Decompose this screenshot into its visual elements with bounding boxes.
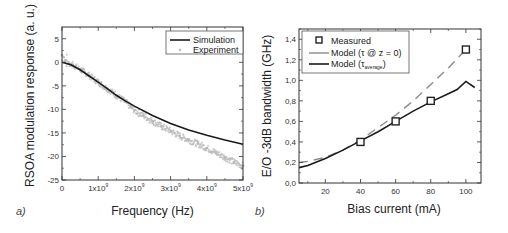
experiment-point xyxy=(143,113,145,115)
experiment-point xyxy=(63,56,65,58)
x-tick-label-exponent: 9 xyxy=(105,182,108,188)
experiment-point xyxy=(198,145,200,147)
x-tick-label-exponent: 9 xyxy=(214,182,217,188)
measured-point xyxy=(427,97,434,104)
experiment-point xyxy=(235,163,237,165)
experiment-point xyxy=(230,163,232,165)
y-tick-label: -25 xyxy=(47,176,59,185)
chart-a-legend: Simulation Experiment xyxy=(166,31,243,55)
x-tick-label-base: 2x10 xyxy=(124,184,142,193)
chart-a-series xyxy=(61,54,245,170)
x-tick-label: 1x109 xyxy=(88,182,108,193)
x-tick-label: 40 xyxy=(356,187,365,196)
experiment-point xyxy=(214,148,216,150)
experiment-point xyxy=(169,127,171,129)
y-tick-label: 1,0 xyxy=(285,76,297,85)
y-tick-label: 0,4 xyxy=(285,138,297,147)
chart-b: 204060801000,00,20,40,60,81,01,21,4 Meas… xyxy=(255,29,481,217)
experiment-point xyxy=(135,109,137,111)
experiment-point xyxy=(118,94,120,96)
x-tick-label: 20 xyxy=(321,187,330,196)
figure: 01x1092x1093x1094x1095x10950-5-10-15-20-… xyxy=(0,0,508,233)
x-tick-label: 2x109 xyxy=(124,182,144,193)
y-tick-label: 0,2 xyxy=(285,158,297,167)
chart-a-x-axis-title: Frequency (Hz) xyxy=(111,204,194,218)
experiment-point xyxy=(65,59,67,61)
experiment-point xyxy=(201,142,203,144)
experiment-point xyxy=(176,134,178,136)
legend-label-simulation: Simulation xyxy=(193,35,235,45)
x-tick-label-base: 80 xyxy=(426,187,435,196)
x-tick-label-base: 40 xyxy=(356,187,365,196)
experiment-point xyxy=(151,117,153,119)
y-tick-label: -20 xyxy=(47,152,59,161)
experiment-point xyxy=(148,119,150,121)
x-tick-label-base: 5x10 xyxy=(233,184,251,193)
experiment-point xyxy=(98,79,100,81)
measured-point xyxy=(462,46,469,53)
experiment-point xyxy=(111,89,113,91)
experiment-point xyxy=(145,113,147,115)
y-tick-label: 0,8 xyxy=(285,97,297,106)
x-tick-label: 0 xyxy=(60,184,65,193)
x-tick-label-base: 4x10 xyxy=(197,184,215,193)
legend-label-measured: Measured xyxy=(331,36,371,46)
x-tick-label-base: 60 xyxy=(391,187,400,196)
experiment-point xyxy=(78,65,80,67)
x-tick-label: 4x109 xyxy=(197,182,217,193)
experiment-point xyxy=(191,140,193,142)
measured-point xyxy=(392,118,399,125)
y-tick-label: 5 xyxy=(55,35,60,44)
x-tick-label-exponent: 9 xyxy=(178,182,181,188)
experiment-point xyxy=(203,144,205,146)
experiment-point xyxy=(226,156,228,158)
experiment-point xyxy=(218,151,220,153)
experiment-point xyxy=(174,132,176,134)
x-tick-label-base: 20 xyxy=(321,187,330,196)
experiment-point xyxy=(133,111,135,113)
experiment-point xyxy=(163,126,165,128)
x-tick-label-exponent: 9 xyxy=(142,182,145,188)
x-tick-label: 60 xyxy=(391,187,400,196)
experiment-point xyxy=(163,124,165,126)
experiment-point xyxy=(154,119,156,121)
legend-label-experiment: Experiment xyxy=(193,45,239,55)
y-tick-label: 0,0 xyxy=(285,179,297,188)
x-tick-label-exponent: 9 xyxy=(250,182,253,188)
chart-a: 01x1092x1093x1094x1095x10950-5-10-15-20-… xyxy=(16,4,253,218)
x-tick-label: 5x109 xyxy=(233,182,253,193)
experiment-point xyxy=(223,154,225,156)
chart-b-legend: Measured Model (τ @ z = 0) Model (τavera… xyxy=(302,31,409,73)
x-tick-label-base: 100 xyxy=(459,187,473,196)
experiment-point xyxy=(90,79,92,81)
experiment-point xyxy=(94,76,96,78)
experiment-point xyxy=(74,68,76,70)
experiment-point xyxy=(99,86,101,88)
experiment-point xyxy=(68,61,70,63)
experiment-point xyxy=(161,126,163,128)
experiment-point xyxy=(162,128,164,130)
experiment-point xyxy=(158,125,160,127)
x-tick-label-base: 3x10 xyxy=(161,184,179,193)
experiment-point xyxy=(88,71,90,73)
legend-label-model-average-suffix: ) xyxy=(383,59,386,69)
experiment-point xyxy=(207,147,209,149)
y-tick-label: -5 xyxy=(52,82,60,91)
experiment-point xyxy=(160,123,162,125)
experiment-point xyxy=(197,142,199,144)
y-tick-label: 1,4 xyxy=(285,35,297,44)
experiment-point xyxy=(198,140,200,142)
x-tick-label: 3x109 xyxy=(161,182,181,193)
experiment-point xyxy=(66,54,68,56)
measured-point xyxy=(357,138,364,145)
y-tick-label: 0,6 xyxy=(285,117,297,126)
experiment-point xyxy=(65,65,67,67)
model-average-line xyxy=(299,81,475,167)
experiment-point xyxy=(114,91,116,93)
experiment-point xyxy=(241,166,243,168)
chart-b-y-axis-title: E/O -3dB bandwidth (GHz) xyxy=(260,35,274,178)
experiment-point xyxy=(72,61,74,63)
experiment-point xyxy=(150,119,152,121)
chart-a-y-axis-title: RSOA modulation response (a. u.) xyxy=(23,4,37,187)
experiment-point xyxy=(195,145,197,147)
